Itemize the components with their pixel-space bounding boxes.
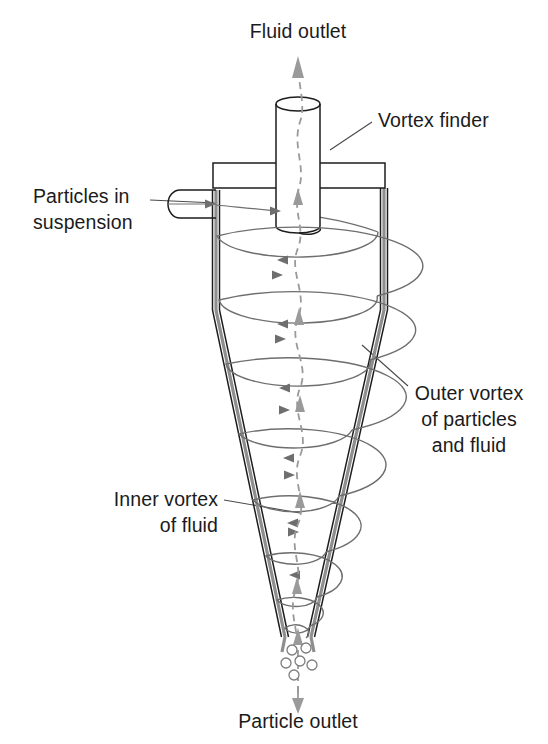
- leader-vortex-finder: [330, 122, 372, 150]
- apex-right-stub-shade: [311, 637, 314, 652]
- label-inner-vortex-line1: Inner vortex: [114, 488, 218, 510]
- spiral-turn-1: [217, 227, 423, 296]
- label-outer-vortex-line1: Outer vortex: [415, 382, 524, 404]
- inner-vortex-arrowhead-6: [292, 577, 302, 594]
- particle: [301, 643, 311, 653]
- spiral-turn-2: [219, 292, 416, 360]
- label-outer-vortex-line3: and fluid: [432, 434, 507, 456]
- label-particles-in-suspension-line1: Particles in: [33, 185, 130, 207]
- inner-vortex-arrowhead-7: [293, 628, 303, 645]
- particle-outlet-particles: [281, 643, 317, 680]
- label-inner-vortex-line2: of fluid: [160, 514, 218, 536]
- inner-vortex-arrowhead-top: [292, 56, 304, 78]
- spiral-arrowhead-9: [284, 471, 295, 480]
- inlet-stream-arrowhead: [205, 200, 216, 209]
- vortex-finder-tube: [276, 97, 320, 233]
- particle: [289, 670, 299, 680]
- cyclone-right-wall-inner-edge: [308, 188, 381, 637]
- spiral-arrowhead-8: [283, 454, 294, 463]
- spiral-turn-4: [239, 429, 386, 496]
- inner-vortex-arrowhead-5: [295, 491, 305, 508]
- label-outer-vortex-line2: of particles: [421, 408, 517, 430]
- spiral-turn-3: [226, 358, 406, 430]
- apex-left-stub-shade: [282, 637, 285, 652]
- label-fluid-outlet: Fluid outlet: [250, 20, 347, 42]
- label-vortex-finder: Vortex finder: [378, 109, 489, 131]
- spiral-arrowhead-7: [279, 406, 290, 415]
- outer-vortex-spiral: [217, 207, 423, 639]
- spiral-arrowhead-4: [277, 320, 288, 329]
- particle: [295, 656, 305, 666]
- particle: [287, 645, 297, 655]
- spiral-arrowhead-5: [275, 335, 286, 344]
- inner-vortex-arrowhead-3: [294, 308, 304, 325]
- particle: [281, 658, 291, 668]
- spiral-arrowhead-11: [288, 528, 299, 537]
- particle: [307, 660, 317, 670]
- label-particles-in-suspension-line2: suspension: [33, 211, 133, 233]
- spiral-turn-6: [266, 552, 342, 597]
- spiral-arrowhead-3: [272, 271, 283, 280]
- cyclone-separator-diagram: Fluid outlet Vortex finder Particles in …: [0, 0, 548, 744]
